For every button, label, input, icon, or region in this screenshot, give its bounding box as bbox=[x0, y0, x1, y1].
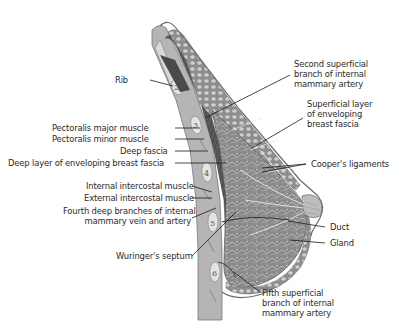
rib-number-4: 4 bbox=[204, 169, 209, 178]
label-fourth-deep-branches: Fourth deep branches of internal mammary… bbox=[63, 206, 191, 226]
label-fifth-superficial-branch-line-1: Fifth superficial bbox=[262, 288, 334, 298]
label-second-superficial-branch-line-2: branch of internal bbox=[294, 69, 368, 79]
label-superficial-layer-fascia: Superficial layer of enveloping breast f… bbox=[307, 99, 372, 129]
label-fourth-deep-branches-line-2: mammary vein and artery bbox=[63, 216, 191, 226]
rib-number-2: 2 bbox=[174, 83, 179, 92]
label-deep-layer-enveloping-breast-fascia: Deep layer of enveloping breast fascia bbox=[8, 158, 164, 168]
label-gland: Gland bbox=[330, 238, 354, 248]
label-pectoralis-minor-muscle: Pectoralis minor muscle bbox=[52, 134, 149, 144]
label-superficial-layer-fascia-line-1: Superficial layer bbox=[307, 99, 372, 109]
rib-number-5: 5 bbox=[210, 219, 215, 228]
label-superficial-layer-fascia-line-3: breast fascia bbox=[307, 119, 372, 129]
label-duct: Duct bbox=[330, 222, 349, 232]
label-external-intercostal-muscle: External intercostal muscle bbox=[84, 193, 194, 203]
label-coopers-ligaments: Cooper's ligaments bbox=[311, 159, 389, 169]
label-second-superficial-branch-line-1: Second superficial bbox=[294, 59, 368, 69]
label-wuringers-septum: Wuringer's septum bbox=[116, 251, 193, 261]
label-fifth-superficial-branch-line-3: mammary artery bbox=[262, 308, 334, 318]
label-fifth-superficial-branch-line-2: branch of internal bbox=[262, 298, 334, 308]
breast-anatomy-diagram: 2 3 4 5 6 bbox=[0, 0, 407, 334]
label-superficial-layer-fascia-line-2: of enveloping bbox=[307, 109, 372, 119]
label-pectoralis-major-muscle: Pectoralis major muscle bbox=[52, 123, 148, 133]
label-internal-intercostal-muscle: Internal intercostal muscle bbox=[86, 181, 194, 191]
rib-number-3: 3 bbox=[193, 121, 198, 130]
label-fifth-superficial-branch: Fifth superficial branch of internal mam… bbox=[262, 288, 334, 318]
label-rib: Rib bbox=[115, 75, 128, 85]
label-second-superficial-branch: Second superficial branch of internal ma… bbox=[294, 59, 368, 89]
label-second-superficial-branch-line-3: mammary artery bbox=[294, 79, 368, 89]
label-deep-fascia: Deep fascia bbox=[120, 146, 168, 156]
label-fourth-deep-branches-line-1: Fourth deep branches of internal bbox=[63, 206, 191, 216]
